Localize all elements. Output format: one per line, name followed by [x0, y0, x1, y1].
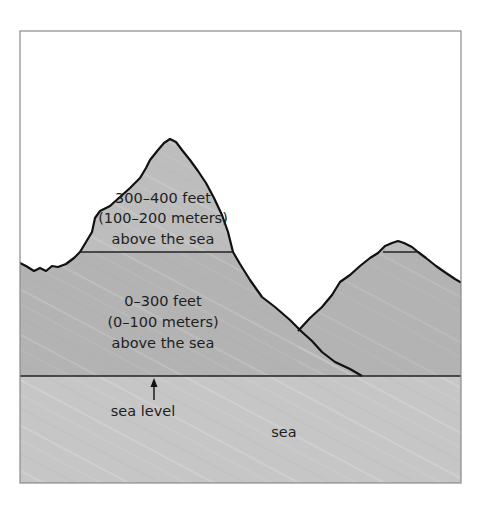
sea-label: sea	[271, 424, 296, 440]
lower-band-label-line1: 0–300 feet	[124, 293, 202, 309]
lower-band-label-line3: above the sea	[112, 335, 215, 351]
upper-band-label-line3: above the sea	[112, 231, 215, 247]
upper-band-label-line1: 300–400 feet	[115, 190, 211, 206]
sea-level-label: sea level	[111, 403, 175, 419]
elevation-diagram: 300–400 feet (100–200 meters) above the …	[0, 0, 484, 506]
lower-band-label-line2: (0–100 meters)	[107, 314, 218, 330]
upper-band-label-line2: (100–200 meters)	[98, 210, 228, 226]
